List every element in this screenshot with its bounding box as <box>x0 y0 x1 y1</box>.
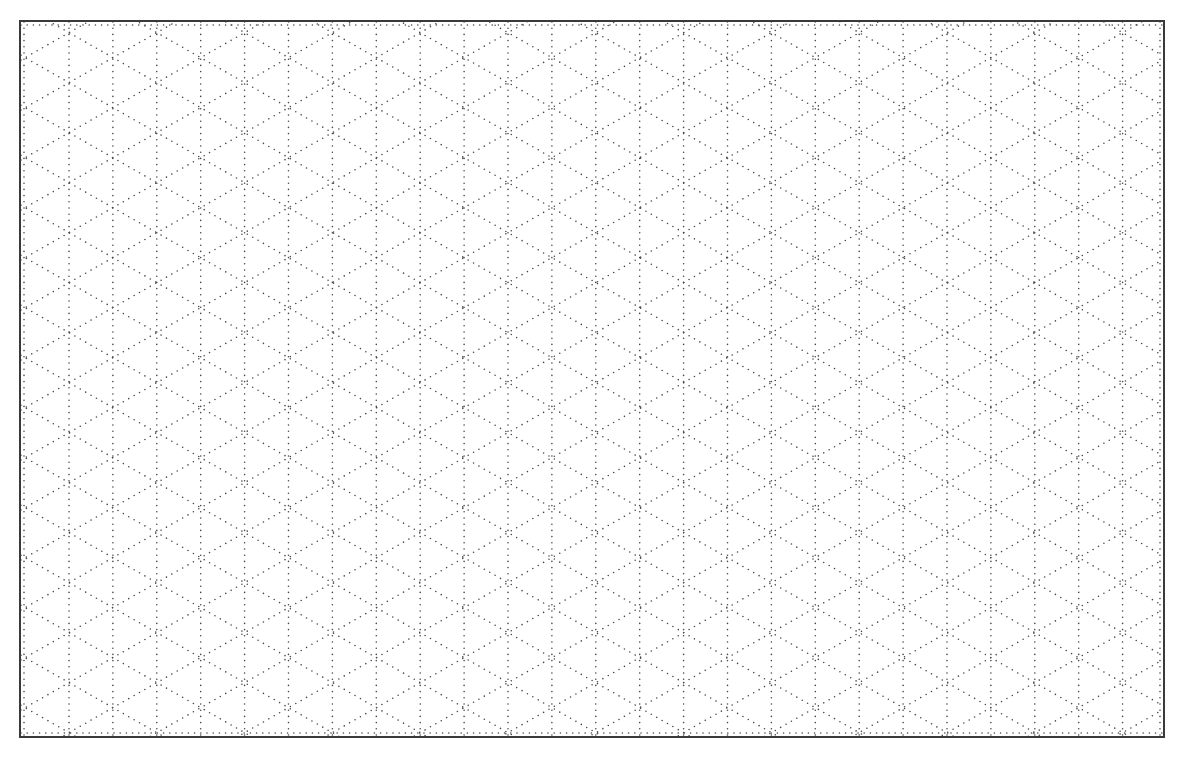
grid-diagonal-line <box>21 22 1163 610</box>
grid-diagonal-line <box>21 22 1163 60</box>
grid-diagonal-line <box>21 22 1163 360</box>
grid-diagonal-line <box>21 22 1163 156</box>
isometric-grid-sheet <box>19 20 1165 738</box>
grid-diagonal-line <box>21 560 1163 736</box>
grid-diagonal-line <box>21 555 1163 736</box>
grid-diagonal-line <box>21 22 1163 460</box>
grid-diagonal-line <box>21 22 1163 406</box>
grid-diagonal-line <box>21 360 1163 736</box>
grid-diagonal-line <box>21 22 1163 506</box>
grid-diagonal-line <box>21 305 1163 736</box>
grid-diagonal-line <box>21 510 1163 736</box>
grid-diagonal-line <box>21 310 1163 736</box>
grid-diagonal-line <box>21 55 1163 705</box>
grid-diagonal-line <box>21 410 1163 736</box>
grid-diagonal-line <box>21 22 1163 656</box>
grid-diagonal-line <box>21 22 1163 556</box>
grid-diagonal-line <box>21 155 1163 736</box>
grid-diagonal-line <box>21 22 1163 160</box>
isometric-dot-grid <box>21 22 1163 736</box>
grid-diagonal-line <box>21 455 1163 736</box>
grid-diagonal-line <box>21 610 1163 736</box>
grid-diagonal-line <box>21 22 1163 560</box>
grid-diagonal-line <box>21 655 1163 736</box>
grid-diagonal-line <box>21 705 1163 736</box>
grid-diagonal-line <box>21 22 1163 260</box>
grid-diagonal-line <box>21 22 1163 256</box>
grid-diagonal-line <box>21 22 1163 356</box>
grid-diagonal-line <box>21 22 1163 510</box>
grid-diagonal-line <box>21 22 1163 456</box>
grid-diagonal-line <box>21 710 1163 736</box>
grid-diagonal-line <box>21 460 1163 736</box>
grid-diagonal-line <box>21 660 1163 736</box>
grid-diagonal-line <box>21 60 1163 710</box>
grid-diagonal-line <box>21 505 1163 736</box>
grid-diagonal-line <box>21 255 1163 736</box>
grid-diagonal-line <box>21 355 1163 736</box>
grid-diagonal-line <box>21 160 1163 736</box>
grid-diagonal-line <box>21 22 1163 606</box>
grid-diagonal-line <box>21 22 1163 206</box>
grid-diagonal-line <box>21 105 1163 736</box>
grid-diagonal-line <box>21 22 1163 310</box>
grid-diagonal-line <box>21 22 1163 56</box>
grid-diagonal-line <box>21 110 1163 736</box>
grid-diagonal-line <box>21 22 1163 660</box>
grid-diagonal-line <box>21 405 1163 736</box>
grid-diagonal-line <box>21 22 1163 306</box>
grid-diagonal-line <box>21 22 1163 210</box>
